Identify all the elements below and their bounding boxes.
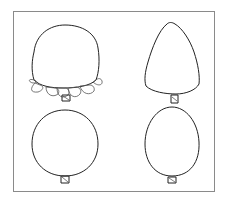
oval-crown-tree [145, 107, 199, 183]
rounded-crown-with-leaves-tree [29, 25, 102, 101]
round-crown-tree [32, 110, 98, 183]
conical-crown-tree [145, 23, 199, 104]
tree-shapes-canvas [0, 0, 231, 204]
